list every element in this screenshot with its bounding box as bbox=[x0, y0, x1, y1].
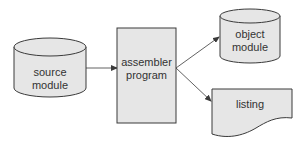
assembler-program-node: assembler program bbox=[117, 28, 176, 123]
assembler-label-2: program bbox=[126, 69, 167, 81]
diagram-canvas: source module assembler program object m… bbox=[0, 0, 307, 146]
edge-assembler-to-listing bbox=[176, 68, 211, 101]
source-module-label-2: module bbox=[32, 79, 68, 91]
source-module-label-1: source bbox=[33, 66, 66, 78]
assembler-label-1: assembler bbox=[121, 56, 172, 68]
listing-label: listing bbox=[236, 98, 264, 110]
object-module-label-1: object bbox=[235, 28, 264, 40]
object-module-label-2: module bbox=[232, 41, 268, 53]
listing-node: listing bbox=[212, 89, 292, 136]
object-module-node: object module bbox=[220, 9, 280, 63]
edge-assembler-to-object bbox=[176, 37, 219, 68]
source-module-node: source module bbox=[14, 38, 86, 97]
